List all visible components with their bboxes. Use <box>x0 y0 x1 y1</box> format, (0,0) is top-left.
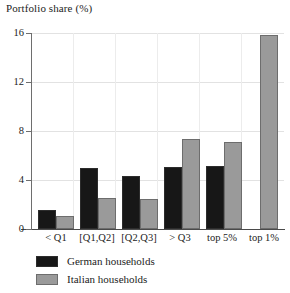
legend-item-german: German households <box>36 252 155 270</box>
x-axis-line <box>21 229 285 230</box>
legend-swatch-german-icon <box>36 256 58 267</box>
bar-italian-top5 <box>224 142 242 229</box>
bar-german-top5 <box>206 166 224 229</box>
bar-german-gtq3 <box>164 167 182 229</box>
bar-german-q1q2 <box>80 168 98 229</box>
chart-axis-title: Portfolio share (%) <box>6 2 92 15</box>
x-category-label-top1: top 1% <box>240 232 288 244</box>
bar-italian-q1q2 <box>98 198 116 229</box>
bar-german-q1 <box>38 210 56 229</box>
legend-item-italian: Italian households <box>36 270 155 288</box>
plot-area <box>32 33 284 229</box>
y-tick-label-4: 4 <box>0 175 24 186</box>
y-tick-label-8: 8 <box>0 126 24 137</box>
gridline-16 <box>32 33 284 34</box>
legend-swatch-italian-icon <box>36 274 58 285</box>
bar-italian-q2q3 <box>140 199 158 229</box>
y-tick-label-16: 16 <box>0 28 24 39</box>
y-tick-mark-0 <box>26 229 32 230</box>
y-tick-label-zero: 0 <box>0 224 24 235</box>
bar-italian-gtq3 <box>182 139 200 229</box>
bar-italian-top1 <box>260 35 278 229</box>
y-tick-label-12: 12 <box>0 77 24 88</box>
chart-legend: German households Italian households <box>36 252 155 288</box>
bar-chart: Portfolio share (%) 16 12 8 4 0 <box>0 0 290 293</box>
vgridline-1 <box>73 33 74 229</box>
bar-german-q2q3 <box>122 176 140 229</box>
bar-italian-q1 <box>56 216 74 229</box>
legend-label-italian: Italian households <box>67 273 147 285</box>
gridline-4 <box>32 180 284 181</box>
gridline-8 <box>32 131 284 132</box>
legend-label-german: German households <box>67 255 155 267</box>
gridline-12 <box>32 82 284 83</box>
